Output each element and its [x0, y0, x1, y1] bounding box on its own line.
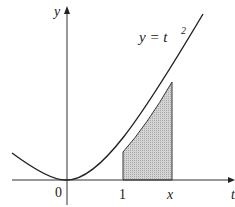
y-axis-arrow-icon — [64, 6, 70, 14]
tick-label-x: x — [166, 187, 174, 202]
parabola — [12, 14, 203, 180]
curve-equation-exponent: 2 — [181, 25, 186, 36]
origin-label: 0 — [55, 185, 62, 200]
area-under-parabola-diagram: y y = t 2 0 1 x t — [0, 0, 235, 207]
tick-label-1: 1 — [119, 187, 126, 202]
t-axis-arrow-icon — [228, 177, 235, 183]
curve-equation-label: y = t — [137, 29, 168, 45]
shaded-area — [123, 82, 172, 180]
t-axis-label: t — [231, 187, 235, 202]
y-axis-label: y — [52, 4, 61, 19]
